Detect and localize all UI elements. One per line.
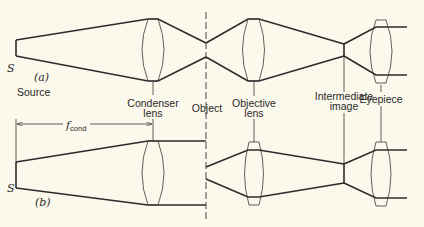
source-label: Source [17, 86, 50, 98]
source-symbol-b: S [7, 182, 15, 195]
ray-lower-b2 [206, 179, 344, 197]
panel-a: S (a) [7, 19, 407, 96]
objective-lens-b [245, 142, 264, 205]
component-labels: Source Condenser lens Object Objective l… [17, 86, 403, 119]
ray-upper-b1 [16, 141, 206, 162]
eyepiece-lens-a [370, 20, 392, 83]
ray-upper-a3 [344, 27, 407, 44]
ray-upper-b2 [206, 150, 344, 167]
ray-lower-a3 [344, 56, 407, 75]
panel-label-b: (b) [35, 196, 51, 209]
ray-lower-b3 [344, 183, 407, 198]
condenser-label-line2: lens [143, 107, 162, 119]
microscope-optics-diagram: S (a) Source Condenser lens Object Objec… [0, 0, 424, 227]
source-symbol-a: S [7, 62, 15, 75]
panel-label-a: (a) [34, 71, 49, 84]
objective-lens-a [243, 19, 265, 81]
eyepiece-label: Eyepiece [359, 93, 402, 105]
intermediate-label-line2: image [330, 100, 359, 112]
fcond-subscript: cond [70, 124, 86, 133]
ray-upper-a1 [16, 19, 206, 43]
object-label: Object [192, 102, 222, 114]
condenser-lens-b [142, 141, 164, 205]
fcond-label: fcond [65, 119, 86, 133]
objective-label-line2: lens [244, 107, 263, 119]
panel-b: fcond S (b) [7, 106, 407, 209]
ray-upper-a2 [206, 19, 344, 44]
ray-lower-a2 [206, 56, 344, 81]
ray-upper-b3 [344, 150, 407, 164]
condenser-lens-a [142, 19, 164, 81]
